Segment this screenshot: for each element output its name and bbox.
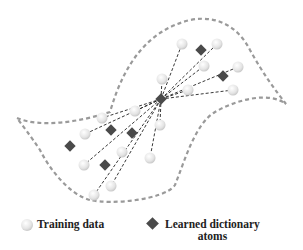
legend-atom-icon bbox=[146, 217, 159, 230]
training-point bbox=[199, 61, 210, 72]
legend-training: Training data bbox=[37, 218, 104, 230]
legend-atoms-label: Learned dictionary atoms bbox=[165, 218, 260, 242]
training-point bbox=[157, 74, 168, 85]
training-point bbox=[80, 129, 91, 140]
training-point bbox=[183, 85, 194, 96]
training-point bbox=[177, 39, 188, 50]
training-point bbox=[97, 113, 108, 124]
legend-atoms: Learned dictionary atoms bbox=[165, 218, 260, 242]
legend-training-icon bbox=[21, 219, 33, 231]
connection-line bbox=[161, 44, 182, 99]
legend-training-label: Training data bbox=[37, 218, 104, 230]
training-point bbox=[106, 181, 117, 192]
dictionary-atom bbox=[195, 44, 206, 55]
dictionary-atom bbox=[105, 124, 116, 135]
training-point bbox=[212, 39, 223, 50]
training-point bbox=[117, 147, 128, 158]
training-point bbox=[233, 62, 244, 73]
training-points bbox=[79, 39, 244, 201]
training-point bbox=[155, 120, 166, 131]
dictionary-atom bbox=[64, 140, 75, 151]
training-point bbox=[89, 190, 100, 201]
training-point bbox=[228, 85, 239, 96]
training-point bbox=[79, 160, 90, 171]
dictionary-atom bbox=[99, 159, 110, 170]
training-point bbox=[130, 106, 141, 117]
training-point bbox=[145, 153, 156, 164]
manifold-diagram bbox=[0, 0, 303, 250]
connection-line bbox=[161, 67, 238, 99]
dictionary-atom bbox=[126, 127, 137, 138]
manifold-outline bbox=[17, 19, 286, 202]
